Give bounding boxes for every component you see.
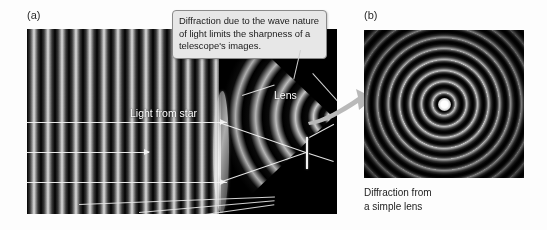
panel-b-caption: Diffraction from a simple lens xyxy=(364,186,534,213)
label-wave-crests: Wave crests xyxy=(277,213,334,214)
label-light-from-star: Light from star xyxy=(130,107,197,119)
panel-letter-a: (a) xyxy=(27,9,40,21)
ray-line-lower xyxy=(27,182,227,183)
airy-central-disk xyxy=(438,98,451,111)
ray-arrow-middle xyxy=(144,149,150,155)
lens-edge-highlight xyxy=(218,89,221,214)
caption-line-1: Diffraction from xyxy=(364,186,534,200)
callout-text: Diffraction due to the wave nature of li… xyxy=(179,15,319,51)
lens-element xyxy=(213,91,229,214)
panel-b-airy-pattern xyxy=(364,30,524,178)
panel-letter-b: (b) xyxy=(364,9,377,21)
diffraction-figure: (a) xyxy=(0,0,547,230)
label-lens: Lens xyxy=(274,89,297,101)
ray-line-upper xyxy=(27,122,227,123)
callout-balloon: Diffraction due to the wave nature of li… xyxy=(172,10,327,59)
ray-line-middle xyxy=(27,152,149,153)
caption-line-2: a simple lens xyxy=(364,200,534,214)
